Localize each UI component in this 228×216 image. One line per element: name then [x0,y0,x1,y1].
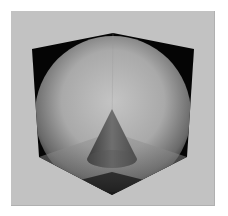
rendered-3d-scene [0,0,228,216]
